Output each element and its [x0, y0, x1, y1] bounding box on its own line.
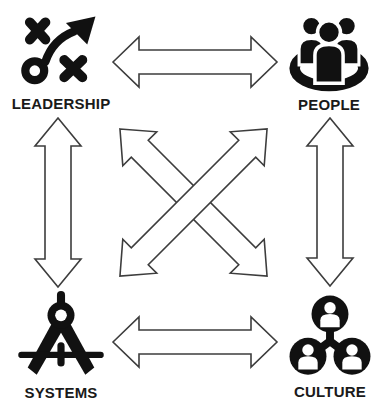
arrow-leadership-people — [113, 37, 277, 87]
node-systems: SYSTEMS — [6, 291, 116, 401]
network-icon — [286, 292, 374, 380]
node-leadership: LEADERSHIP — [6, 10, 116, 112]
arrow-leadership-systems — [35, 118, 81, 287]
node-label-culture: CULTURE — [294, 383, 366, 400]
node-label-systems: SYSTEMS — [24, 384, 97, 401]
arrow-people-culture — [307, 118, 353, 286]
arrow-systems-culture — [113, 317, 277, 367]
diagram-canvas: LEADERSHIP PEOPLE — [0, 0, 386, 416]
node-people: PEOPLE — [274, 5, 384, 113]
compass-icon — [16, 291, 106, 381]
node-label-people: PEOPLE — [298, 96, 360, 113]
node-culture: CULTURE — [275, 292, 385, 400]
strategy-icon — [20, 10, 102, 92]
group-icon — [285, 5, 373, 93]
node-label-leadership: LEADERSHIP — [12, 95, 111, 112]
